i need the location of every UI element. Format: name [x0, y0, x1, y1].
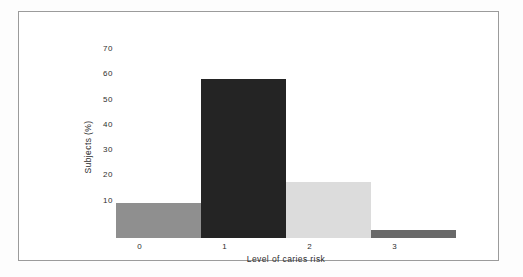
y-tick-label: 40 [77, 120, 113, 130]
y-tick-label: 30 [77, 145, 113, 155]
x-tick-label: 0 [97, 242, 182, 252]
bar-risk-1 [201, 79, 286, 238]
screenshot-canvas: Subjects (%) Level of caries risk 102030… [0, 0, 523, 277]
x-axis-title: Level of caries risk [116, 254, 456, 264]
y-tick-label: 20 [77, 170, 113, 180]
x-tick-label: 3 [352, 242, 437, 252]
bar-risk-0 [116, 203, 201, 238]
y-tick-label: 10 [77, 196, 113, 206]
y-tick-label: 50 [77, 95, 113, 105]
bar-risk-2 [286, 182, 371, 238]
plot-area [116, 52, 456, 238]
bar-risk-3 [371, 230, 456, 238]
y-tick-label: 70 [77, 44, 113, 54]
figure-frame: Subjects (%) Level of caries risk 102030… [18, 11, 499, 261]
x-tick-label: 2 [267, 242, 352, 252]
x-tick-label: 1 [182, 242, 267, 252]
y-tick-label: 60 [77, 69, 113, 79]
